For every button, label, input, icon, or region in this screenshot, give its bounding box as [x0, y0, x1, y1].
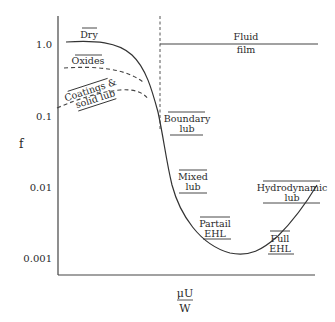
label-boundary-2: lub: [179, 123, 194, 134]
label-hydro-2: lub: [284, 192, 299, 203]
label-fluid-2: film: [237, 44, 255, 55]
label-full-2: EHL: [269, 243, 291, 254]
label-oxides: Oxides: [72, 55, 105, 66]
tick-0-1: 0.1: [36, 111, 52, 122]
y-axis-label: f: [19, 137, 25, 151]
label-mixed-2: lub: [185, 181, 200, 192]
tick-0-001: 0.001: [23, 253, 52, 264]
label-fluid-1: Fluid: [234, 31, 259, 42]
stribeck-curve: [66, 41, 317, 254]
tick-1: 1.0: [36, 39, 52, 50]
tick-0-01: 0.01: [30, 182, 52, 193]
x-label-numerator: μU: [177, 287, 193, 300]
label-partial-2: EHL: [204, 228, 226, 239]
diagram-canvas: 1.0 0.1 0.01 0.001 f μU W Dry Oxides Coa…: [0, 0, 335, 322]
stribeck-diagram: 1.0 0.1 0.01 0.001 f μU W Dry Oxides Coa…: [0, 0, 335, 322]
coatings-label-group: Coatings & solid lub: [63, 76, 121, 114]
label-dry: Dry: [80, 29, 98, 40]
x-label-denominator: W: [179, 302, 191, 315]
